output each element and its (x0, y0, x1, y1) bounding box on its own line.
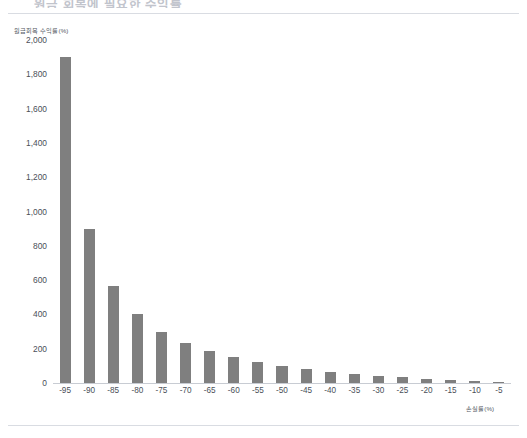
x-tick-label: -45 (300, 386, 312, 395)
bar[interactable] (276, 366, 287, 383)
bar-slot (132, 40, 143, 383)
y-axis-tick-labels: 02004006008001,0001,2001,4001,6001,8002,… (0, 0, 47, 438)
divider-top (8, 13, 519, 14)
x-tick-label: -30 (372, 386, 384, 395)
bar-slot (84, 40, 95, 383)
bar-slot (325, 40, 336, 383)
bar[interactable] (60, 57, 71, 383)
x-tick-label: -35 (348, 386, 360, 395)
bar-slot (373, 40, 384, 383)
bar-series (53, 40, 511, 383)
bar[interactable] (397, 377, 408, 383)
y-tick-label: 400 (33, 309, 47, 319)
bar[interactable] (180, 343, 191, 383)
bar[interactable] (469, 381, 480, 383)
x-axis-line (53, 383, 511, 384)
y-tick-label: 1,600 (26, 104, 47, 114)
x-tick-label: -10 (469, 386, 481, 395)
bar[interactable] (156, 332, 167, 383)
bar[interactable] (108, 286, 119, 383)
bar[interactable] (325, 372, 336, 383)
y-tick-label: 1,000 (26, 207, 47, 217)
bar-slot (252, 40, 263, 383)
x-tick-label: -15 (445, 386, 457, 395)
x-tick-label: -55 (252, 386, 264, 395)
bar-slot (421, 40, 432, 383)
x-tick-label: -65 (204, 386, 216, 395)
chart-page: 원금 회복에 필요한 수익률 원금회복 수익률(%) 손실률(%) 020040… (0, 0, 527, 438)
bar-slot (349, 40, 360, 383)
bar-slot (204, 40, 215, 383)
bar-slot (180, 40, 191, 383)
bar-slot (469, 40, 480, 383)
y-tick-label: 1,800 (26, 69, 47, 79)
x-tick-label: -80 (131, 386, 143, 395)
y-tick-label: 0 (42, 378, 47, 388)
bar-slot (397, 40, 408, 383)
x-tick-label: -50 (276, 386, 288, 395)
bar[interactable] (252, 362, 263, 383)
bar-slot (301, 40, 312, 383)
bar[interactable] (421, 379, 432, 383)
page-title: 원금 회복에 필요한 수익률 (34, 0, 334, 8)
x-axis-title: 손실률(%) (466, 404, 494, 413)
bar[interactable] (228, 357, 239, 383)
bar[interactable] (493, 382, 504, 383)
x-tick-label: -25 (397, 386, 409, 395)
bar-slot (156, 40, 167, 383)
y-tick-label: 1,400 (26, 138, 47, 148)
x-tick-label: -85 (107, 386, 119, 395)
bar-slot (228, 40, 239, 383)
bar-slot (493, 40, 504, 383)
divider-bottom (8, 425, 519, 426)
x-tick-label: -70 (180, 386, 192, 395)
bar[interactable] (301, 369, 312, 383)
bar[interactable] (373, 376, 384, 383)
bar-slot (445, 40, 456, 383)
x-tick-label: -60 (228, 386, 240, 395)
y-tick-label: 600 (33, 275, 47, 285)
x-tick-label: -20 (421, 386, 433, 395)
bar[interactable] (132, 314, 143, 383)
y-tick-label: 200 (33, 344, 47, 354)
bar-slot (108, 40, 119, 383)
y-tick-label: 1,200 (26, 172, 47, 182)
x-tick-label: -40 (324, 386, 336, 395)
x-tick-label: -5 (495, 386, 502, 395)
bar-slot (276, 40, 287, 383)
bar-slot (60, 40, 71, 383)
y-tick-label: 2,000 (26, 35, 47, 45)
bar[interactable] (84, 229, 95, 383)
bar[interactable] (349, 374, 360, 383)
x-axis-tick-labels: -95-90-85-80-75-70-65-60-55-50-45-40-35-… (53, 386, 511, 402)
x-tick-label: -95 (59, 386, 71, 395)
y-tick-label: 800 (33, 241, 47, 251)
bar[interactable] (204, 351, 215, 383)
x-tick-label: -90 (83, 386, 95, 395)
x-tick-label: -75 (156, 386, 168, 395)
bar[interactable] (445, 380, 456, 383)
